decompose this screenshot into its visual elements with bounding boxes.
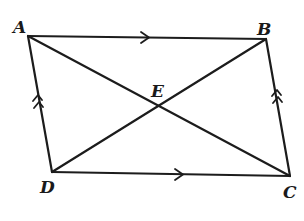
vertex-label-d: D xyxy=(39,177,55,197)
side-dc xyxy=(52,172,290,176)
parallelogram-diagram: A B C D E xyxy=(0,0,304,221)
side-bc xyxy=(266,39,290,176)
vertex-label-a: A xyxy=(11,17,26,37)
vertex-label-c: C xyxy=(283,182,297,202)
vertex-label-e: E xyxy=(150,81,165,101)
vertex-label-b: B xyxy=(256,19,271,39)
diagonal-bd xyxy=(52,39,266,172)
